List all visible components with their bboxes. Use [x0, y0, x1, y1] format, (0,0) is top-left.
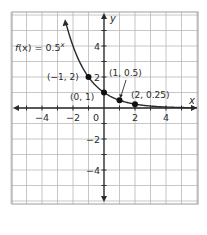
point-label: (2, 0.25) — [131, 90, 170, 100]
x-axis-arrow-left-icon — [13, 105, 19, 111]
origin-label: 0 — [93, 112, 99, 123]
y-tick-label: 2 — [94, 72, 100, 83]
y-axis-arrow-up-icon — [101, 13, 107, 19]
y-tick-label: 4 — [94, 41, 100, 52]
leader-line — [121, 80, 126, 96]
point-label: (0, 1) — [70, 92, 94, 102]
y-tick-label: −2 — [86, 134, 100, 145]
x-tick-label: −4 — [35, 112, 49, 123]
exponential-graph: −4−224042−2−4 (−1, 2)(0, 1)(1, 0.5)(2, 0… — [0, 0, 207, 235]
point-labels: (−1, 2)(0, 1)(1, 0.5)(2, 0.25) — [47, 68, 170, 102]
data-point — [117, 97, 123, 103]
curve-arrow-icon — [63, 19, 69, 26]
point-label: (−1, 2) — [47, 72, 79, 82]
function-label: f(x) = 0.5x — [15, 41, 66, 53]
x-tick-label: 4 — [163, 112, 169, 123]
data-point — [132, 101, 138, 107]
point-label: (1, 0.5) — [109, 68, 142, 78]
y-tick-label: −4 — [86, 165, 100, 176]
y-axis-label: y — [109, 13, 117, 24]
data-point — [101, 90, 107, 96]
x-axis-label: x — [188, 95, 195, 106]
data-point — [86, 74, 92, 80]
x-tick-label: 2 — [132, 112, 138, 123]
x-tick-label: −2 — [66, 112, 80, 123]
